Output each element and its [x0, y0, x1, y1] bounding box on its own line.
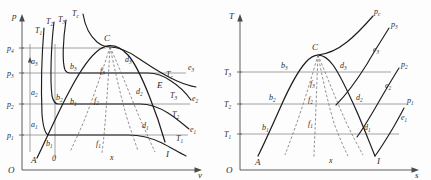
pv-point-f1: f1: [96, 139, 101, 149]
ts-tick-T1: T1: [224, 130, 231, 140]
ts-isobar-label-pc: pc: [373, 7, 381, 17]
ts-quality-label-x: x: [328, 156, 333, 165]
ts-point-d3: d3: [340, 61, 347, 71]
ts-point-e1: e1: [401, 113, 408, 123]
pv-right-label-T2: T2: [172, 110, 179, 120]
ts-temperature-tick-labels: T3 T2 T1: [224, 68, 231, 140]
ts-point-b2: b2: [269, 93, 276, 103]
pressure-volume-diagram: p v O p4 p3 p2 p1 T1 T2 T3 Tc Tc T3 T: [0, 0, 215, 180]
ts-y-ticks: [237, 72, 242, 134]
ts-point-f3: f3: [310, 79, 315, 89]
pv-quality-lines: [70, 47, 155, 153]
pv-right-label-T3: T3: [170, 91, 177, 101]
ts-point-f2: f2: [308, 95, 313, 105]
pv-point-b3: b3: [70, 62, 77, 72]
ts-isobar-label-p1: p1: [406, 96, 414, 106]
pv-point-d3: d3: [125, 55, 132, 65]
pv-point-e2: e2: [192, 94, 199, 104]
pv-point-f2: f2: [94, 96, 99, 106]
ts-isobar-labels: pc p3 p2 p1: [373, 7, 414, 106]
ts-axis-labels: T s O: [226, 11, 419, 180]
ts-x-axis-label: s: [415, 170, 419, 180]
pv-point-b1-prime: b1: [70, 97, 77, 107]
pv-critical-point-C: C: [104, 33, 111, 43]
pv-isotherm-label-Tc: Tc: [72, 9, 79, 19]
pv-point-E: E: [156, 80, 163, 90]
ts-point-e3: e3: [373, 45, 380, 55]
pv-svg: p v O p4 p3 p2 p1 T1 T2 T3 Tc Tc T3 T: [0, 0, 215, 180]
pv-isotherm-labels-top: T1 T2 T3 Tc: [35, 9, 79, 36]
ts-isobar-label-p3: p3: [390, 20, 398, 30]
pv-point-A: A: [30, 155, 37, 165]
pv-y-ticks: [19, 48, 24, 135]
pv-right-label-T1: T1: [176, 134, 183, 144]
pv-isotherm-label-T1: T1: [35, 26, 42, 36]
pv-point-d1: d1: [142, 121, 149, 131]
pv-point-f3: f3: [100, 66, 105, 76]
pv-y-axis-label: p: [11, 11, 17, 21]
pv-axes: [19, 14, 202, 173]
pv-tick-p3: p3: [6, 69, 14, 79]
pv-isotherm-label-T2: T2: [46, 17, 53, 27]
pv-pressure-tick-labels: p4 p3 p2 p1: [6, 44, 14, 141]
pv-point-e3: e3: [188, 63, 195, 73]
pv-point-d2: d2: [136, 87, 143, 97]
pv-isotherm-label-T3: T3: [58, 15, 65, 25]
pv-x-axis-label: v: [198, 170, 202, 180]
ts-point-d2: d2: [356, 93, 363, 103]
pv-tick-p2: p2: [6, 100, 14, 110]
pv-points-a: a3 a2 a1: [28, 57, 38, 130]
ts-tick-T3: T3: [224, 68, 231, 78]
pv-point-a3: a3: [31, 57, 38, 67]
figure-canvas: p v O p4 p3 p2 p1 T1 T2 T3 Tc Tc T3 T: [0, 0, 431, 180]
pv-point-e1: e1: [190, 125, 197, 135]
temperature-entropy-diagram: T s O T3 T2 T1 pc p3 p2 p1 b3 b2 b1: [215, 0, 431, 180]
pv-tick-p1: p1: [6, 131, 14, 141]
ts-point-b1: b1: [262, 123, 269, 133]
ts-quality-lines: [285, 55, 363, 157]
pv-point-a2: a2: [31, 88, 38, 98]
pv-zero-label: 0: [52, 154, 56, 163]
ts-point-I: I: [376, 156, 381, 166]
pv-point-b1: b1: [46, 139, 53, 149]
ts-origin-label: O: [226, 165, 233, 175]
ts-critical-point-C: C: [312, 42, 319, 52]
ts-tick-T2: T2: [224, 100, 231, 110]
pv-point-I: I: [165, 149, 170, 159]
pv-points-d: d3 d2 d1: [125, 55, 149, 131]
ts-saturation-dome: [258, 55, 375, 156]
ts-y-axis-label: T: [229, 11, 235, 21]
pv-right-label-Tc: Tc: [166, 70, 173, 80]
ts-svg: T s O T3 T2 T1 pc p3 p2 p1 b3 b2 b1: [215, 0, 431, 180]
pv-point-b2: b2: [56, 93, 63, 103]
pv-tick-p4: p4: [6, 44, 14, 54]
ts-point-f1: f1: [308, 119, 313, 129]
pv-quality-label-x: x: [109, 153, 114, 162]
ts-point-A: A: [254, 157, 261, 167]
pv-origin-label: O: [8, 165, 15, 175]
ts-isobar-label-p2: p2: [400, 60, 408, 70]
pv-point-a1: a1: [31, 120, 38, 130]
ts-point-d1: d1: [364, 123, 371, 133]
ts-point-b3: b3: [281, 61, 288, 71]
pv-isotherm-labels-right: Tc T3 T2 T1: [166, 70, 183, 144]
ts-axes: [237, 14, 419, 173]
